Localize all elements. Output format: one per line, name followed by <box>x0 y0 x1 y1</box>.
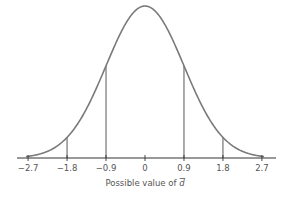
x-axis-label: Possible value of d <box>105 178 185 188</box>
reference-lines <box>67 66 223 158</box>
x-tick-label: −2.7 <box>18 163 39 173</box>
x-tick-label: 0 <box>142 163 147 173</box>
normal-distribution-chart: −2.7−1.8−0.900.91.82.7 Possible value of… <box>0 0 287 198</box>
bell-curve <box>26 6 264 157</box>
x-tick-label: 2.7 <box>255 163 269 173</box>
d-bar-symbol: d <box>179 178 185 188</box>
x-tick-label: −0.9 <box>96 163 117 173</box>
x-tick-label: 1.8 <box>216 163 230 173</box>
x-tick-label: −1.8 <box>57 163 78 173</box>
x-tick-label: 0.9 <box>177 163 191 173</box>
